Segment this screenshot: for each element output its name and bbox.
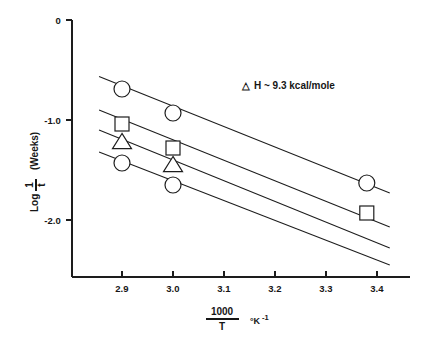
y-tick-label-minus-2: -2.0 [44, 215, 61, 226]
x-tick-label-3-2: 3.2 [268, 283, 282, 294]
y-axis-title: Log 1 t (Weeks) [24, 132, 47, 212]
y-tick-label-minus-1: -1.0 [44, 115, 61, 126]
data-point-marker-triangle [164, 157, 183, 172]
fit-line-series-1 [99, 77, 390, 194]
y-tick-label-0: 0 [56, 15, 61, 26]
x-tick-label-3-0: 3.0 [166, 283, 180, 294]
data-point-marker-circle [114, 81, 130, 97]
enthalpy-annotation-symbol: △ [241, 80, 250, 91]
arrhenius-plot-figure: 0 -1.0 -2.0 2.9 3.0 3.1 3.2 3.3 3.4 △ H … [0, 0, 433, 339]
y-axis-title-units: (Weeks) [29, 132, 40, 170]
data-point-marker-triangle [113, 134, 132, 149]
data-point-marker-circle [165, 105, 181, 121]
data-point-marker-square [360, 206, 374, 220]
data-point-marker-circle [359, 175, 375, 191]
x-axis-title-numerator: 1000 [211, 306, 234, 317]
data-point-marker-square [115, 117, 129, 131]
y-axis-title-numerator: 1 [24, 182, 35, 188]
data-point-marker-square [166, 141, 180, 155]
x-axis-title-units: °K [250, 316, 261, 326]
y-axis-title-denominator: t [36, 183, 47, 187]
data-markers-group [113, 81, 375, 220]
fit-line-series-3 [99, 130, 390, 248]
x-axis-title-units-exponent: -1 [262, 313, 269, 322]
x-axis-tick-labels: 2.9 3.0 3.1 3.2 3.3 3.4 [115, 283, 384, 294]
plot-canvas: 0 -1.0 -2.0 2.9 3.0 3.1 3.2 3.3 3.4 △ H … [0, 0, 433, 339]
y-axis-title-prefix: Log [29, 194, 40, 212]
x-tick-label-2-9: 2.9 [115, 283, 129, 294]
fit-lines-group [99, 77, 390, 266]
data-point-marker-circle [165, 177, 181, 193]
x-axis-title: 1000 T °K -1 [206, 306, 269, 332]
x-tick-label-3-1: 3.1 [217, 283, 231, 294]
x-tick-label-3-3: 3.3 [319, 283, 333, 294]
enthalpy-annotation: △ H ~ 9.3 kcal/mole [241, 80, 335, 91]
y-axis-tick-labels: 0 -1.0 -2.0 [44, 15, 61, 226]
x-tick-label-3-4: 3.4 [370, 283, 384, 294]
x-axis-title-denominator: T [219, 321, 225, 332]
y-axis-ticks [66, 20, 72, 220]
enthalpy-annotation-text: H ~ 9.3 kcal/mole [254, 80, 335, 91]
x-axis-ticks [122, 271, 377, 277]
data-point-marker-circle [114, 155, 130, 171]
